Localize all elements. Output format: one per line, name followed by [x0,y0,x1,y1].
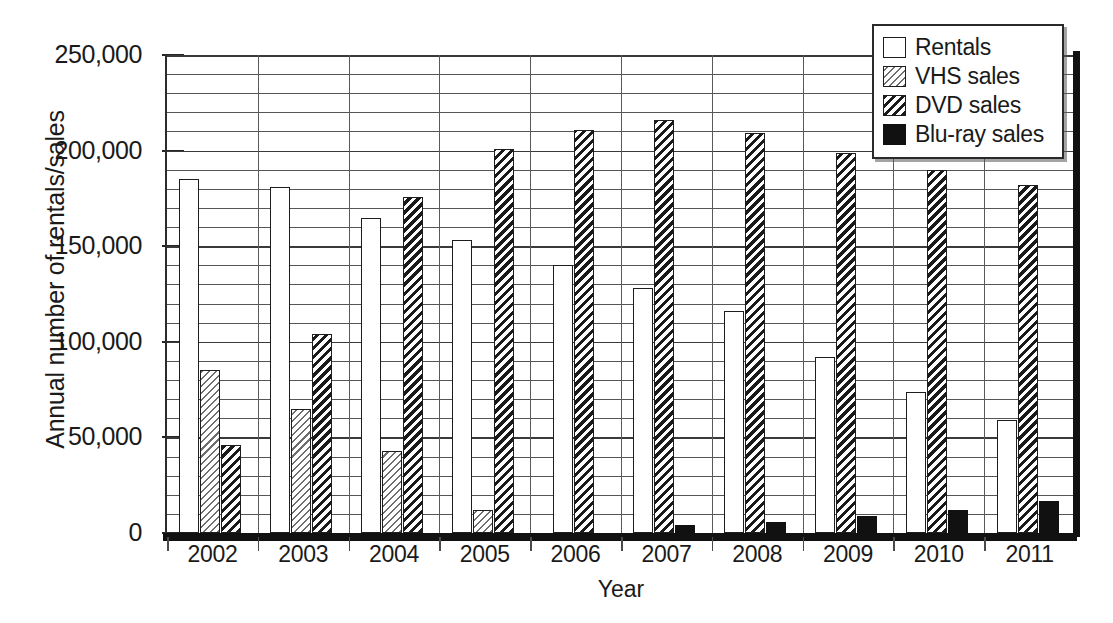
bar-rentals-2010 [906,392,926,533]
x-axis-tick-mark [621,537,623,551]
bar-bluray-2009 [857,516,877,533]
right-spine [1073,51,1080,537]
bar-vhs-2002 [200,370,220,533]
x-axis-tick-label-2003: 2003 [258,541,349,568]
legend-label: DVD sales [915,92,1021,119]
legend-swatch-bluray-icon [883,124,906,145]
bar-group [530,55,621,533]
bar-group [258,55,349,533]
x-axis-title: Year [167,576,1075,603]
legend-item-vhs: VHS sales [883,62,1052,91]
bar-rentals-2008 [724,311,744,533]
y-axis-tick-labels: 050,000100,000150,000200,000250,000 [17,0,142,623]
x-axis-tick-label-2004: 2004 [349,541,440,568]
bar-rentals-2007 [633,288,653,533]
bar-rentals-2005 [452,240,472,533]
bar-bluray-2011 [1039,501,1059,534]
x-axis-tick-label-2005: 2005 [439,541,530,568]
bar-group [167,55,258,533]
x-axis-tick-mark [984,537,986,551]
bar-rentals-2011 [997,420,1017,533]
legend-swatch-dvd-icon [883,95,906,116]
legend-item-rentals: Rentals [883,33,1052,62]
y-axis-tick-label: 50,000 [22,422,142,451]
bar-rentals-2009 [815,357,835,533]
bar-dvd-2011 [1018,185,1038,533]
bar-group [439,55,530,533]
y-axis-tick-label: 0 [22,518,142,547]
legend-item-bluray: Blu-ray sales [883,120,1052,149]
x-axis-tick-mark [803,537,805,551]
x-axis-baseline [163,533,1077,541]
bar-dvd-2009 [836,153,856,533]
x-axis-tick-label-2009: 2009 [803,541,894,568]
bar-group [349,55,440,533]
x-axis-tick-label-2006: 2006 [530,541,621,568]
bar-vhs-2004 [382,451,402,533]
x-axis-tick-mark [439,537,441,551]
x-axis-tick-mark [893,537,895,551]
x-axis-tick-label-2007: 2007 [621,541,712,568]
legend-item-dvd: DVD sales [883,91,1052,120]
y-axis-tick-label: 250,000 [22,40,142,69]
y-axis-tick-label: 150,000 [22,231,142,260]
bar-group [712,55,803,533]
legend: RentalsVHS salesDVD salesBlu-ray sales [872,24,1064,159]
bar-dvd-2003 [312,334,332,533]
x-axis-tick-label-2010: 2010 [893,541,984,568]
bar-rentals-2004 [361,218,381,533]
bar-bluray-2007 [675,525,695,533]
bar-dvd-2006 [574,130,594,533]
x-axis-tick-mark [349,537,351,551]
bar-group [621,55,712,533]
legend-label: Rentals [915,34,991,61]
bar-bluray-2010 [948,510,968,533]
bar-dvd-2005 [494,149,514,533]
x-axis-tick-mark [712,537,714,551]
bar-bluray-2008 [766,522,786,533]
legend-swatch-vhs-icon [883,66,906,87]
bar-chart: Annual number of rentals/sales 050,00010… [0,0,1113,623]
bar-vhs-2005 [473,510,493,533]
bar-vhs-2003 [291,409,311,533]
bar-dvd-2008 [745,133,765,533]
y-axis-tick-label: 200,000 [22,136,142,165]
x-axis-tick-label-2002: 2002 [167,541,258,568]
x-axis-tick-mark [258,537,260,551]
x-axis-tick-label-2011: 2011 [984,541,1075,568]
legend-label: VHS sales [915,63,1020,90]
bar-dvd-2007 [654,120,674,533]
y-axis-tick-label: 100,000 [22,327,142,356]
bar-dvd-2010 [927,170,947,533]
legend-swatch-rentals-icon [883,37,906,58]
bar-rentals-2006 [553,265,573,533]
x-axis-tick-mark [530,537,532,551]
x-axis-tick-label-2008: 2008 [712,541,803,568]
bar-dvd-2002 [221,445,241,533]
x-axis-tick-mark [167,537,169,551]
bar-rentals-2002 [179,179,199,533]
bar-dvd-2004 [403,197,423,534]
bar-rentals-2003 [270,187,290,533]
legend-label: Blu-ray sales [915,121,1044,148]
